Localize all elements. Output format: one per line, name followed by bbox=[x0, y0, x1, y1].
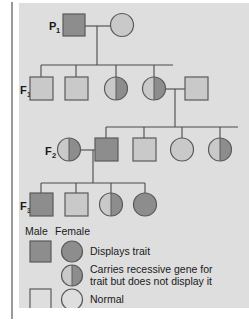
pedigree-panel: P 1 F 1 bbox=[19, 3, 249, 308]
individual-f2-female-3-normal bbox=[171, 138, 194, 161]
legend-key-male-normal bbox=[30, 289, 51, 308]
legend-key-female-normal bbox=[62, 289, 83, 308]
individual-f2-male-2-normal bbox=[133, 138, 156, 161]
legend-label-carrier-line1: Carries recessive gene for bbox=[90, 263, 213, 275]
generation-sublabel-p1: 1 bbox=[56, 26, 60, 35]
legend-label-affected: Displays trait bbox=[90, 245, 150, 257]
legend-key-male-affected bbox=[30, 241, 51, 262]
generation-label-f1: F bbox=[20, 84, 27, 96]
legend-key-female-affected bbox=[62, 241, 83, 262]
pedigree-figure: P 1 F 1 bbox=[0, 0, 249, 323]
individual-p1-female-normal bbox=[111, 14, 134, 37]
individual-f1-male-spouse-normal bbox=[185, 77, 208, 100]
page-left-rule bbox=[11, 2, 13, 319]
generation-sublabel-f2: 2 bbox=[52, 151, 56, 160]
pedigree-diagram: P 1 F 1 bbox=[19, 3, 249, 308]
individual-f3-female-4-affected bbox=[134, 193, 157, 216]
individual-f1-male-2-normal bbox=[65, 77, 88, 100]
legend-header-male: Male bbox=[25, 225, 48, 237]
individual-f2-male-1-affected bbox=[95, 138, 118, 161]
individual-f3-male-1-affected bbox=[30, 193, 53, 216]
generation-label-f2: F bbox=[45, 145, 52, 157]
individual-f3-male-2-normal bbox=[65, 193, 88, 216]
individual-f1-male-1-normal bbox=[30, 77, 53, 100]
legend-label-normal: Normal bbox=[90, 293, 124, 305]
legend-header-female: Female bbox=[55, 225, 90, 237]
individual-p1-male-affected bbox=[63, 14, 85, 36]
legend-label-carrier-line2: trait but does not display it bbox=[90, 275, 212, 287]
generation-label-f3: F bbox=[20, 200, 27, 212]
